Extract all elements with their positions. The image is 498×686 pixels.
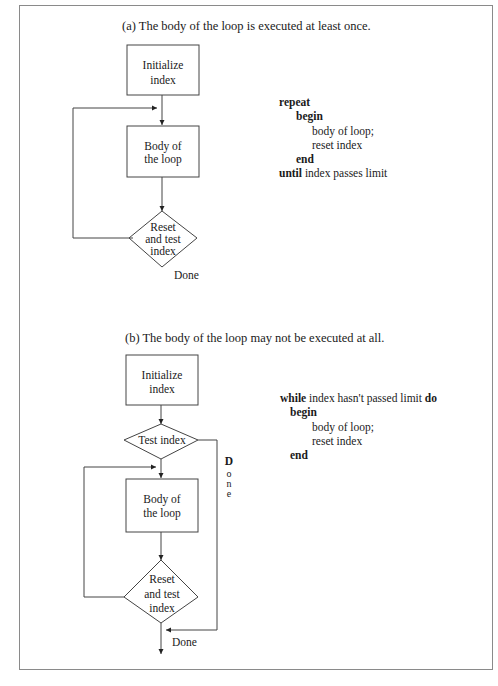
- svg-text:index: index: [150, 74, 176, 86]
- b-body-label: Body of: [143, 493, 181, 506]
- svg-text:and test: and test: [144, 588, 180, 600]
- a-done-label: Done: [174, 269, 199, 281]
- b-test-label: Test index: [138, 434, 186, 446]
- b-done-label: Done: [172, 636, 197, 648]
- code-block-b: while index hasn't passed limit dobeginb…: [280, 391, 437, 462]
- svg-text:index: index: [150, 245, 176, 257]
- b-body-box: [126, 479, 198, 532]
- a-reset-label: Reset: [150, 221, 176, 233]
- svg-text:index: index: [149, 602, 175, 614]
- svg-text:D: D: [225, 455, 233, 467]
- code-block-a: repeatbeginbody of loop;reset indexendun…: [279, 95, 387, 181]
- a-init-label: Initialize: [143, 59, 184, 71]
- svg-text:the loop: the loop: [144, 153, 182, 166]
- b-side-done-label: D o n e: [225, 455, 233, 499]
- svg-text:index: index: [149, 383, 175, 395]
- a-body-label: Body of: [144, 140, 182, 153]
- b-init-label: Initialize: [142, 369, 183, 381]
- svg-text:the loop: the loop: [143, 507, 181, 520]
- b-reset-label: Reset: [149, 573, 175, 585]
- svg-text:e: e: [227, 488, 232, 499]
- svg-text:and test: and test: [145, 233, 181, 245]
